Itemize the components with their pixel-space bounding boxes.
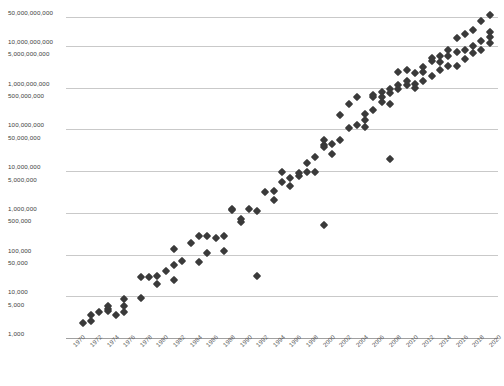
data-point xyxy=(170,275,178,283)
data-point xyxy=(353,93,361,101)
data-point xyxy=(278,168,286,176)
plot-area xyxy=(66,4,498,338)
data-point xyxy=(261,188,269,196)
gridline xyxy=(66,46,498,47)
y-tick-label: 100,000,000 xyxy=(8,122,44,128)
data-point xyxy=(170,245,178,253)
data-point xyxy=(278,178,286,186)
data-point xyxy=(186,239,194,247)
data-point xyxy=(411,68,419,76)
data-point xyxy=(452,62,460,70)
y-tick-label: 5,000,000 xyxy=(8,177,37,183)
y-tick-label: 50,000 xyxy=(8,260,28,266)
data-point xyxy=(369,106,377,114)
data-point xyxy=(386,99,394,107)
data-point xyxy=(328,139,336,147)
data-point xyxy=(485,11,493,19)
y-tick-label: 50,000,000 xyxy=(8,135,40,141)
data-point xyxy=(220,232,228,240)
data-point xyxy=(153,272,161,280)
data-point xyxy=(452,47,460,55)
y-tick-label: 100,000 xyxy=(8,248,31,254)
data-point xyxy=(286,173,294,181)
data-point xyxy=(269,196,277,204)
data-point xyxy=(195,232,203,240)
data-point xyxy=(394,68,402,76)
data-point xyxy=(394,85,402,93)
y-tick-label: 10,000,000,000 xyxy=(8,39,53,45)
data-point xyxy=(319,221,327,229)
data-point xyxy=(211,234,219,242)
data-point xyxy=(195,257,203,265)
data-point xyxy=(353,121,361,129)
gridline xyxy=(66,88,498,89)
data-point xyxy=(95,308,103,316)
gridline xyxy=(66,255,498,256)
data-point xyxy=(336,136,344,144)
data-point xyxy=(444,62,452,70)
data-point xyxy=(137,294,145,302)
data-point xyxy=(419,67,427,75)
data-point xyxy=(78,319,86,327)
gridline xyxy=(66,213,498,214)
gridline xyxy=(66,296,498,297)
scatter-chart: 50,000,000,00010,000,000,0005,000,000,00… xyxy=(0,0,504,386)
data-point xyxy=(161,267,169,275)
data-point xyxy=(87,317,95,325)
data-point xyxy=(253,207,261,215)
y-tick-label: 10,000 xyxy=(8,289,28,295)
data-point xyxy=(477,37,485,45)
data-point xyxy=(178,257,186,265)
data-point xyxy=(311,153,319,161)
data-point xyxy=(153,279,161,287)
data-point xyxy=(336,111,344,119)
data-point xyxy=(112,311,120,319)
data-point xyxy=(477,17,485,25)
data-point xyxy=(203,249,211,257)
data-point xyxy=(477,46,485,54)
y-tick-label: 5,000 xyxy=(8,302,24,308)
data-point xyxy=(427,72,435,80)
data-point xyxy=(269,187,277,195)
data-point xyxy=(145,273,153,281)
data-point xyxy=(286,182,294,190)
y-tick-label: 500,000 xyxy=(8,218,31,224)
data-point xyxy=(469,26,477,34)
y-tick-label: 5,000,000,000 xyxy=(8,51,50,57)
y-tick-label: 1,000,000,000 xyxy=(8,81,50,87)
data-point xyxy=(436,66,444,74)
data-point xyxy=(386,155,394,163)
data-point xyxy=(203,232,211,240)
data-point xyxy=(461,55,469,63)
data-point xyxy=(344,99,352,107)
data-point xyxy=(461,30,469,38)
y-tick-label: 10,000,000 xyxy=(8,164,40,170)
data-point xyxy=(419,77,427,85)
data-point xyxy=(170,261,178,269)
data-point xyxy=(311,168,319,176)
data-point xyxy=(303,159,311,167)
data-point xyxy=(361,115,369,123)
data-point xyxy=(402,66,410,74)
data-point xyxy=(344,124,352,132)
gridline xyxy=(66,17,498,18)
y-tick-label: 500,000,000 xyxy=(8,93,44,99)
data-point xyxy=(253,272,261,280)
data-point xyxy=(328,150,336,158)
data-point xyxy=(452,34,460,42)
gridline xyxy=(66,129,498,130)
y-tick-label: 50,000,000,000 xyxy=(8,10,53,16)
y-tick-label: 1,000,000 xyxy=(8,206,37,212)
y-tick-label: 1,000 xyxy=(8,331,24,337)
